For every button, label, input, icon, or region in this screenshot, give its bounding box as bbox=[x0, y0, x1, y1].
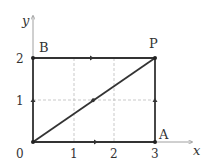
y-tick-1: 1 bbox=[16, 94, 24, 108]
arrow-B-P-icon bbox=[90, 56, 94, 61]
diagram-canvas: y x B P A 2 1 0 1 2 3 bbox=[0, 0, 206, 164]
arrow-O-P-dot bbox=[91, 99, 95, 103]
point-P bbox=[153, 56, 157, 60]
point-A-label: A bbox=[158, 127, 169, 142]
x-tick-1: 1 bbox=[70, 147, 78, 161]
point-origin bbox=[31, 140, 35, 144]
point-B bbox=[31, 56, 35, 60]
x-tick-3: 3 bbox=[151, 147, 159, 161]
point-B-label: B bbox=[39, 40, 49, 55]
arrow-O-A-icon bbox=[94, 140, 98, 145]
y-tick-2: 2 bbox=[16, 52, 24, 66]
point-A bbox=[153, 140, 157, 144]
x-axis-label: x bbox=[193, 143, 201, 158]
x-tick-0: 0 bbox=[16, 147, 24, 161]
x-tick-2: 2 bbox=[110, 147, 118, 161]
point-P-label: P bbox=[149, 36, 158, 51]
y-axis-label: y bbox=[21, 13, 30, 28]
